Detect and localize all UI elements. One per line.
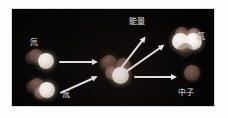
deuterium-proton bbox=[38, 53, 54, 69]
helium-neutron-front bbox=[178, 43, 193, 58]
arrow-tritium-inbound bbox=[59, 74, 99, 94]
diagram-frame: 氘 氚 bbox=[11, 8, 215, 107]
diagram-stage: 氘 氚 bbox=[12, 9, 214, 106]
arrow-deuterium-inbound bbox=[59, 60, 99, 63]
figure-root: 氘 氚 bbox=[0, 0, 228, 118]
label-deuterium-top: 氘 bbox=[30, 38, 38, 47]
label-helium: 氦 bbox=[197, 32, 205, 41]
label-neutron: 中子 bbox=[178, 88, 195, 97]
arrow-neutron-outbound bbox=[134, 75, 178, 78]
label-energy: 能量 bbox=[129, 17, 146, 26]
tritium-proton bbox=[39, 82, 55, 98]
free-neutron bbox=[184, 65, 200, 81]
